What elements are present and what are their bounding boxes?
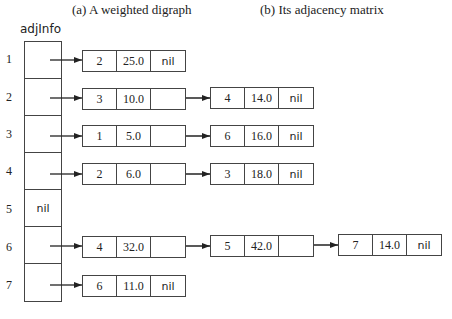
node-vertex: 3: [211, 164, 245, 184]
list-node: 7 14.0 nil: [338, 234, 442, 256]
node-weight: 14.0: [245, 88, 279, 108]
node-weight: 6.0: [117, 164, 151, 184]
list-node: 6 11.0 nil: [82, 275, 186, 297]
node-vertex: 4: [211, 88, 245, 108]
node-weight: 14.0: [373, 235, 407, 255]
node-next: nil: [279, 164, 313, 184]
node-next: nil: [151, 51, 185, 71]
node-weight: 16.0: [245, 126, 279, 146]
node-vertex: 1: [83, 126, 117, 146]
pointer-arrows: [0, 0, 452, 319]
node-next: [151, 237, 185, 257]
node-next: nil: [279, 126, 313, 146]
list-node: 4 14.0 nil: [210, 87, 314, 109]
node-next: [151, 89, 185, 109]
node-next: [279, 236, 313, 256]
node-next: [151, 126, 185, 146]
node-weight: 42.0: [245, 236, 279, 256]
node-vertex: 7: [339, 235, 373, 255]
node-vertex: 4: [83, 237, 117, 257]
list-node: 5 42.0: [210, 235, 314, 257]
list-node: 1 5.0: [82, 125, 186, 147]
node-next: [151, 164, 185, 184]
list-node: 4 32.0: [82, 236, 186, 258]
node-vertex: 5: [211, 236, 245, 256]
node-next: nil: [407, 235, 441, 255]
node-vertex: 2: [83, 51, 117, 71]
list-node: 3 18.0 nil: [210, 163, 314, 185]
node-vertex: 2: [83, 164, 117, 184]
node-vertex: 6: [211, 126, 245, 146]
list-node: 3 10.0: [82, 88, 186, 110]
node-next: nil: [279, 88, 313, 108]
node-weight: 10.0: [117, 89, 151, 109]
node-vertex: 3: [83, 89, 117, 109]
list-node: 2 6.0: [82, 163, 186, 185]
list-node: 6 16.0 nil: [210, 125, 314, 147]
node-weight: 11.0: [117, 276, 151, 296]
node-weight: 32.0: [117, 237, 151, 257]
node-weight: 18.0: [245, 164, 279, 184]
list-node: 2 25.0 nil: [82, 50, 186, 72]
node-next: nil: [151, 276, 185, 296]
node-weight: 5.0: [117, 126, 151, 146]
node-weight: 25.0: [117, 51, 151, 71]
node-vertex: 6: [83, 276, 117, 296]
